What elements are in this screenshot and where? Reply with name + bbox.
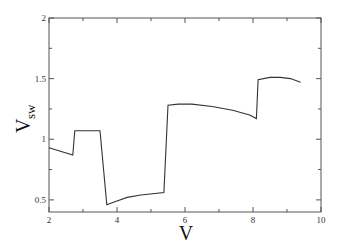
y-tick-label: 2 <box>42 13 47 23</box>
x-tick-label: 8 <box>251 215 256 225</box>
y-axis-title-subscript: sw <box>23 104 38 119</box>
y-tick-label: 1.5 <box>35 74 47 84</box>
y-axis-title-main: V <box>12 118 34 133</box>
y-tick-label: 1 <box>42 134 47 144</box>
vsw-series-line <box>49 77 301 204</box>
line-chart: 246810 0.511.52 V V sw <box>0 0 341 251</box>
x-tick-label: 2 <box>47 215 52 225</box>
x-tick-label: 10 <box>317 215 327 225</box>
x-tick-label: 4 <box>115 215 120 225</box>
plot-frame <box>49 18 321 212</box>
y-tick-label: 0.5 <box>35 195 47 205</box>
axis-ticks <box>49 18 321 212</box>
y-axis-title: V sw <box>12 104 38 133</box>
x-axis-title: V <box>179 222 194 244</box>
